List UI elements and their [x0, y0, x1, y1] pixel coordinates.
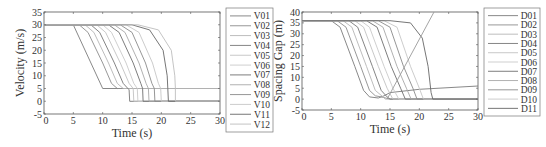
y-tick-label: 5 [295, 83, 300, 94]
legend-entry-v10: V10 [254, 100, 271, 110]
x-tick-label: 25 [444, 111, 454, 122]
y-axis-label: Spacing Gap (m) [271, 20, 285, 102]
y-tick-label: -5 [34, 109, 42, 120]
y-tick-label: 0 [37, 96, 42, 107]
y-tick-label: 30 [290, 28, 300, 39]
y-tick-label: 15 [32, 58, 42, 69]
legend-entry-v08: V08 [254, 80, 271, 90]
y-tick-label: 30 [32, 19, 42, 30]
legend-entry-d11: D11 [521, 104, 537, 114]
plot-area [44, 12, 220, 114]
x-tick-label: 30 [215, 115, 225, 126]
x-tick-label: 20 [156, 115, 166, 126]
y-tick-label: 10 [290, 72, 300, 83]
y-tick-label: 40 [290, 7, 300, 18]
y-tick-label: -5 [292, 105, 300, 116]
y-axis-label: Velocity (m/s) [13, 29, 27, 97]
x-tick-label: 10 [356, 111, 366, 122]
y-tick-label: 20 [32, 45, 42, 56]
legend-entry-v04: V04 [254, 41, 271, 51]
legend: V01V02V03V04V05V06V07V08V09V10V11V12 [226, 8, 273, 132]
legend-entry-v12: V12 [254, 120, 271, 130]
y-tick-label: 5 [37, 83, 42, 94]
y-tick-label: 25 [32, 32, 42, 43]
x-tick-label: 15 [127, 115, 137, 126]
y-tick-label: 15 [290, 61, 300, 72]
y-tick-label: 35 [290, 17, 300, 28]
x-tick-label: 5 [329, 111, 334, 122]
legend-entry-v06: V06 [254, 61, 271, 71]
velocity-chart: 051015202530-505101520253035Time (s)Velo… [13, 7, 273, 141]
y-tick-label: 35 [32, 7, 42, 18]
legend-entry-v03: V03 [254, 31, 271, 41]
legend-entry-v05: V05 [254, 51, 271, 61]
chart-canvas: 051015202530-505101520253035Time (s)Velo… [0, 0, 546, 147]
y-tick-label: 20 [290, 50, 300, 61]
legend-entry-v02: V02 [254, 21, 271, 31]
spacing-gap-chart: 051015202530-50510152025303540Time (s)Sp… [271, 7, 540, 137]
x-tick-label: 15 [385, 111, 395, 122]
x-tick-label: 5 [71, 115, 76, 126]
x-tick-label: 10 [98, 115, 108, 126]
x-tick-label: 0 [302, 111, 307, 122]
x-tick-label: 0 [44, 115, 49, 126]
y-tick-label: 0 [295, 94, 300, 105]
legend-entry-v01: V01 [254, 11, 271, 21]
legend-entry-v07: V07 [254, 70, 271, 80]
legend-entry-v11: V11 [254, 110, 270, 120]
legend-entry-v09: V09 [254, 90, 271, 100]
y-tick-label: 10 [32, 70, 42, 81]
y-tick-label: 25 [290, 39, 300, 50]
x-axis-label: Time (s) [370, 122, 411, 136]
x-tick-label: 20 [414, 111, 424, 122]
legend: D01D02D03D04D05D06D07D08D09D10D11 [484, 8, 540, 116]
x-axis-label: Time (s) [112, 126, 153, 140]
x-tick-label: 30 [473, 111, 483, 122]
x-tick-label: 25 [186, 115, 196, 126]
